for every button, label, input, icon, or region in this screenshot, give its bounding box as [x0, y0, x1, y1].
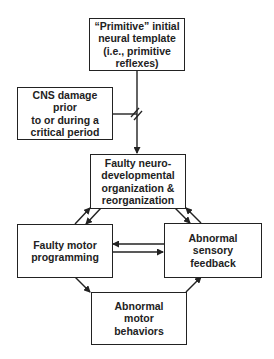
flow-diagram: “Primitive” initial neural template (i.e… — [0, 0, 274, 359]
edge-motor-to-behaviors — [75, 277, 90, 292]
edge-behaviors-to-sensory — [186, 277, 201, 292]
node-abnormal-sensory-feedback: Abnormal sensory feedback — [164, 223, 262, 278]
node-primitive-template: “Primitive” initial neural template (i.e… — [89, 18, 185, 71]
node-abnormal-motor-behaviors: Abnormal motor behaviors — [91, 292, 187, 345]
node-faulty-motor-programming: Faulty motor programming — [17, 224, 113, 278]
node-cns-damage: CNS damage prior to or during a critical… — [17, 87, 113, 140]
node-faulty-neurodevelopmental: Faulty neuro- developmental organization… — [90, 154, 186, 209]
